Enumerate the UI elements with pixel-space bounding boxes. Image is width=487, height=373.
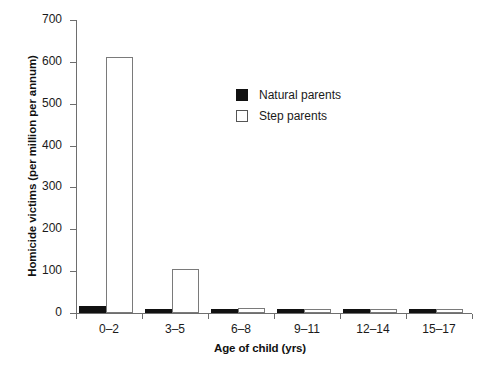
legend-label: Natural parents	[259, 88, 341, 102]
y-axis-tick-label: 700	[42, 12, 62, 26]
plot-area: 0100200300400500600700 0–23–56–89–1112–1…	[76, 20, 472, 313]
y-axis-tick-label: 400	[42, 138, 62, 152]
y-axis-tick	[70, 62, 76, 63]
x-axis-tick	[472, 314, 473, 319]
bar	[370, 309, 397, 313]
y-axis-tick-label: 0	[55, 305, 62, 319]
y-axis-tick	[70, 104, 76, 105]
legend-swatch-step-parents-icon	[236, 110, 248, 122]
x-axis-tick-label: 15–17	[422, 322, 455, 336]
y-axis-title: Homicide victims (per million per annum)	[26, 16, 38, 316]
x-axis-tick-label: 12–14	[356, 322, 389, 336]
x-axis-tick	[142, 314, 143, 319]
bar	[79, 306, 106, 313]
chart-legend: Natural parentsStep parents	[236, 84, 341, 126]
x-axis-tick-label: 6–8	[231, 322, 251, 336]
y-axis-tick	[70, 146, 76, 147]
y-axis-tick	[70, 229, 76, 230]
x-axis-tick	[406, 314, 407, 319]
x-axis-tick	[76, 314, 77, 319]
legend-label: Step parents	[259, 109, 327, 123]
x-axis-title: Age of child (yrs)	[60, 342, 460, 354]
y-axis-tick-label: 200	[42, 221, 62, 235]
x-axis-tick-label: 3–5	[165, 322, 185, 336]
bar	[343, 309, 370, 313]
bar	[304, 309, 331, 313]
y-axis-tick-label: 100	[42, 263, 62, 277]
bar	[172, 269, 199, 313]
y-axis-tick	[70, 20, 76, 21]
bar	[238, 308, 265, 313]
x-axis-tick	[340, 314, 341, 319]
y-axis-tick	[70, 271, 76, 272]
bar	[409, 309, 436, 313]
bar	[436, 309, 463, 313]
bar	[145, 309, 172, 313]
x-axis-tick	[274, 314, 275, 319]
x-axis-tick-label: 0–2	[99, 322, 119, 336]
legend-item: Step parents	[236, 105, 341, 126]
bar	[277, 309, 304, 313]
bar	[211, 309, 238, 313]
y-axis-tick-label: 500	[42, 96, 62, 110]
chart-figure: Homicide victims (per million per annum)…	[0, 0, 487, 373]
x-axis-tick	[208, 314, 209, 319]
legend-item: Natural parents	[236, 84, 341, 105]
bar	[106, 57, 133, 313]
y-axis-tick	[70, 187, 76, 188]
x-axis-tick-label: 9–11	[294, 322, 320, 336]
y-axis-tick-label: 300	[42, 179, 62, 193]
legend-swatch-natural-parents-icon	[236, 89, 248, 101]
y-axis-tick-label: 600	[42, 54, 62, 68]
y-axis-line	[76, 20, 77, 314]
